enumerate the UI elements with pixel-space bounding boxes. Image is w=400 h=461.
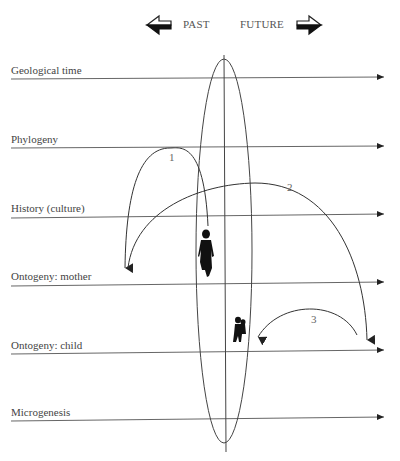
- future-label: FUTURE: [240, 18, 284, 30]
- arc-1-number: 1: [169, 151, 175, 163]
- time-lines: [11, 77, 384, 421]
- arrow-left-icon: [147, 16, 171, 34]
- label-phylogeny: Phylogeny: [11, 133, 58, 145]
- arc-3-number: 3: [311, 313, 317, 325]
- present-line: [224, 55, 226, 452]
- arrow-right-icon: [297, 16, 321, 34]
- arc-2-number: 2: [287, 181, 293, 193]
- label-geological-time: Geological time: [11, 64, 82, 76]
- past-label: PAST: [183, 18, 210, 30]
- child-figure: [233, 317, 246, 342]
- label-ontogeny-child: Ontogeny: child: [11, 339, 82, 351]
- label-ontogeny-mother: Ontogeny: mother: [11, 270, 91, 282]
- arc-3: [258, 309, 357, 337]
- line-phylogeny: [11, 146, 384, 148]
- line-geological: [11, 77, 384, 79]
- arc-2: [128, 183, 367, 340]
- label-history: History (culture): [11, 202, 85, 214]
- label-microgenesis: Microgenesis: [11, 406, 70, 418]
- mother-figure: [198, 230, 214, 278]
- line-ontogeny-mother: [11, 282, 384, 286]
